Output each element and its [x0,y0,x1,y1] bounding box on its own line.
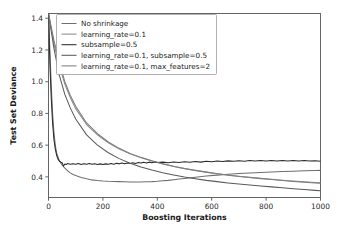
x-tick-label: 200 [96,202,110,211]
y-tick-label: 1.4 [31,14,43,23]
x-axis-title: Boosting Iterations [142,213,227,222]
x-tick-label: 0 [46,202,51,211]
y-tick-label: 0.6 [31,141,43,150]
x-tick-label: 800 [259,202,273,211]
legend-label-4: learning_rate=0.1, max_features=2 [81,62,210,71]
y-tick-label: 0.4 [31,173,43,182]
y-tick-label: 1.2 [31,46,43,55]
legend-label-0: No shrinkage [81,19,129,28]
x-tick-label: 400 [150,202,164,211]
deviance-line-chart: 020040060080010000.40.60.81.01.21.4Boost… [0,0,340,243]
x-tick-label: 1000 [311,202,330,211]
legend-label-2: subsample=0.5 [81,40,137,49]
legend-label-3: learning_rate=0.1, subsample=0.5 [81,51,207,60]
figure-canvas: 020040060080010000.40.60.81.01.21.4Boost… [0,0,340,243]
y-tick-label: 0.8 [31,109,43,118]
x-tick-label: 600 [205,202,219,211]
y-tick-label: 1.0 [31,77,43,86]
legend-label-1: learning_rate=0.1 [81,30,146,39]
y-axis-title: Test Set Deviance [9,66,18,144]
